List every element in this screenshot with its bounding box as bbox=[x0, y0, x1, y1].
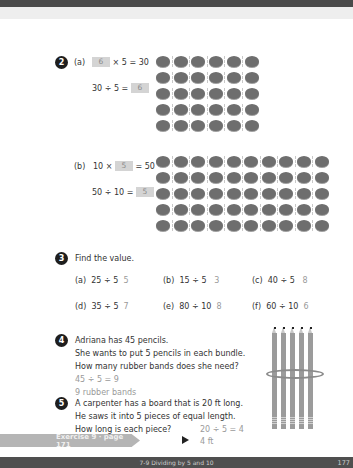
answer-box[interactable]: 6 bbox=[131, 83, 149, 93]
counter-cell bbox=[261, 204, 279, 215]
counter-dot-icon bbox=[174, 120, 188, 131]
counter-dot-icon bbox=[191, 204, 205, 215]
counter-dot-icon bbox=[227, 188, 241, 199]
answer-box[interactable]: 5 bbox=[115, 161, 133, 171]
counter-dot-icon bbox=[209, 72, 223, 83]
counter-dot-icon bbox=[245, 104, 259, 115]
counter-cell bbox=[225, 204, 243, 215]
arrow-right-icon bbox=[182, 436, 189, 444]
counter-cell bbox=[208, 220, 226, 231]
pencil-icon bbox=[272, 333, 277, 429]
counter-cell bbox=[190, 188, 208, 199]
counter-dot-icon bbox=[245, 120, 259, 131]
q2b-equation-2: 50 ÷ 10 = 5 bbox=[92, 187, 154, 197]
counter-dot-icon bbox=[209, 188, 223, 199]
counter-cell bbox=[173, 220, 191, 231]
counter-cell bbox=[190, 172, 208, 183]
counter-cell bbox=[208, 188, 226, 199]
counter-dot-icon bbox=[209, 220, 223, 231]
q5-line-1: A carpenter has a board that is 20 ft lo… bbox=[75, 399, 243, 408]
q2a-label: (a) bbox=[74, 58, 85, 67]
counter-cell bbox=[155, 188, 173, 199]
counter-cell bbox=[296, 204, 314, 215]
counter-dot-icon bbox=[174, 72, 188, 83]
counter-cell bbox=[243, 56, 261, 67]
counter-cell bbox=[243, 204, 261, 215]
counter-dot-icon bbox=[227, 56, 241, 67]
q3-item-b: (b) 15 ÷ 5 3 bbox=[163, 276, 219, 285]
counter-cell bbox=[296, 220, 314, 231]
counter-cell bbox=[173, 104, 191, 115]
q3-item-d: (d) 35 ÷ 5 7 bbox=[75, 302, 129, 311]
counter-cell bbox=[225, 56, 243, 67]
counter-cell bbox=[278, 172, 296, 183]
counter-cell bbox=[313, 156, 331, 167]
q2a-equation-2: 30 ÷ 5 = 6 bbox=[92, 83, 149, 93]
counter-cell bbox=[313, 188, 331, 199]
counter-cell bbox=[155, 220, 173, 231]
answer-box[interactable]: 6 bbox=[92, 57, 110, 67]
counter-dot-icon bbox=[156, 88, 170, 99]
counter-cell bbox=[173, 56, 191, 67]
counter-dot-icon bbox=[156, 120, 170, 131]
counter-cell bbox=[208, 204, 226, 215]
counter-dot-icon bbox=[262, 172, 276, 183]
page-footer: 7-9 Dividing by 5 and 10 177 bbox=[0, 457, 353, 468]
counter-dot-icon bbox=[227, 220, 241, 231]
counter-dot-icon bbox=[191, 188, 205, 199]
counter-dot-icon bbox=[174, 56, 188, 67]
q4-work: 45 ÷ 5 = 9 bbox=[75, 375, 119, 384]
counter-cell bbox=[278, 220, 296, 231]
counter-dot-icon bbox=[245, 88, 259, 99]
q5-answer: 4 ft bbox=[200, 437, 213, 446]
counter-dot-icon bbox=[156, 56, 170, 67]
counter-cell bbox=[155, 72, 173, 83]
counter-dot-icon bbox=[227, 204, 241, 215]
counter-dot-icon bbox=[244, 204, 258, 215]
counter-dot-icon bbox=[191, 72, 205, 83]
counter-dot-icon bbox=[174, 88, 188, 99]
counter-dot-icon bbox=[279, 220, 293, 231]
counter-cell bbox=[173, 156, 191, 167]
counter-dot-icon bbox=[191, 104, 205, 115]
counter-dot-icon bbox=[297, 204, 311, 215]
counter-dot-icon bbox=[174, 220, 188, 231]
counter-dot-icon bbox=[209, 120, 223, 131]
counter-dot-icon bbox=[191, 172, 205, 183]
counter-cell bbox=[208, 88, 226, 99]
counter-cell bbox=[190, 220, 208, 231]
counter-dot-icon bbox=[209, 56, 223, 67]
counter-dot-icon bbox=[297, 156, 311, 167]
question-2-number: 2 bbox=[55, 56, 68, 69]
pencil-icon bbox=[281, 333, 286, 429]
counter-dot-icon bbox=[156, 188, 170, 199]
counter-cell bbox=[155, 156, 173, 167]
q3-item-e: (e) 80 ÷ 10 8 bbox=[163, 302, 222, 311]
counter-cell bbox=[243, 188, 261, 199]
q4-answer: 9 rubber bands bbox=[75, 388, 136, 397]
q2a-equation-1: 6 × 5 = 30 bbox=[92, 57, 149, 67]
counter-cell bbox=[208, 156, 226, 167]
counter-dot-icon bbox=[279, 188, 293, 199]
counter-cell bbox=[190, 104, 208, 115]
counter-dot-icon bbox=[209, 204, 223, 215]
counter-cell bbox=[155, 120, 173, 131]
counter-dot-icon bbox=[279, 204, 293, 215]
q3-item-c: (c) 40 ÷ 5 8 bbox=[252, 276, 308, 285]
counter-dot-icon bbox=[297, 188, 311, 199]
exercise-link[interactable]: Exercise 9 · page 171 bbox=[0, 434, 140, 447]
counter-dot-icon bbox=[297, 220, 311, 231]
counter-dot-icon bbox=[244, 156, 258, 167]
q2b-label: (b) bbox=[74, 162, 85, 171]
footer-title: 7-9 Dividing by 5 and 10 bbox=[0, 459, 353, 466]
rubber-band-icon bbox=[266, 369, 324, 379]
counter-dot-icon bbox=[279, 156, 293, 167]
q5-work: 20 ÷ 5 = 4 bbox=[200, 425, 244, 434]
counter-cell bbox=[173, 188, 191, 199]
counter-cell bbox=[208, 172, 226, 183]
counter-cell bbox=[278, 188, 296, 199]
answer-box[interactable]: 5 bbox=[136, 187, 154, 197]
counter-dot-icon bbox=[315, 188, 329, 199]
counter-cell bbox=[243, 220, 261, 231]
q5-line-3: How long is each piece? bbox=[75, 425, 171, 434]
